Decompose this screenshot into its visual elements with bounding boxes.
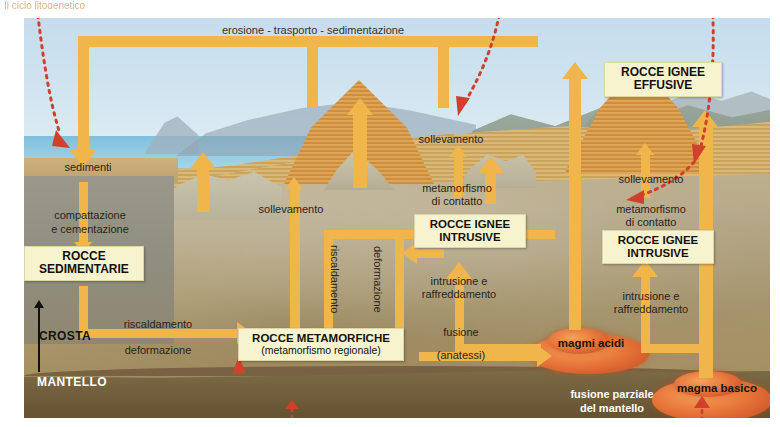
box-rocce-sedimentarie[interactable]: ROCCE SEDIMENTARIE (24, 246, 144, 281)
label-fusione-line2: (anatessi) (420, 349, 502, 362)
arrow-central-cone-uplift-head (347, 98, 373, 115)
label-sollevamento-right: sollevamento (596, 173, 706, 186)
cut-off-caption: Il ciclo litogenetico (4, 0, 234, 9)
label-fusione-line1: fusione (420, 326, 502, 339)
crust-thickness-scale-line (38, 308, 40, 372)
label-metamorfismo-right-line2: di contatto (596, 216, 706, 229)
label-metamorfismo-right-line1: metamorfismo (596, 203, 706, 216)
box-intrusive-right-line1: ROCCE IGNEE (618, 234, 699, 246)
label-intrusione-right-line1: intrusione e (590, 290, 712, 303)
crust-thickness-scale-head-icon (34, 300, 44, 308)
box-rocce-metamorfiche-sub: (metamorfismo regionale) (246, 345, 396, 357)
box-rocce-sedimentarie-line1: ROCCE (62, 249, 105, 263)
diagram-scene: erosione - trasporto - sedimentazione se… (24, 18, 770, 418)
label-crosta: CROSTA (24, 329, 108, 344)
arrow-knoll-uplift-head (478, 156, 504, 173)
label-magma-basico: magma basico (663, 381, 770, 395)
label-riscaldamento-horizontal: riscaldamento (108, 318, 208, 331)
arrow-central-cone-uplift (353, 114, 367, 188)
label-fusione-parziale-line2: del mantello (552, 402, 672, 415)
box-rocce-ignee-intrusive-center[interactable]: ROCCE IGNEE INTRUSIVE (414, 214, 526, 248)
label-metamorfismo-center-line2: di contatto (402, 195, 512, 208)
label-sollevamento-center: sollevamento (396, 133, 506, 146)
label-sollevamento-left: sollevamento (236, 203, 346, 216)
rock-cycle-figure: Il ciclo litogenetico (0, 0, 780, 427)
dotted-path-bottom-center (282, 400, 302, 418)
dotted-path-left (24, 18, 94, 168)
arrow-metamorfiche-sollevamento-head (285, 177, 303, 189)
label-magmi-acidi: magmi acidi (543, 336, 639, 350)
label-fusione-parziale-line1: fusione parziale (552, 388, 672, 401)
box-intrusive-center-line1: ROCCE IGNEE (430, 218, 511, 230)
box-rocce-ignee-intrusive-right[interactable]: ROCCE IGNEE INTRUSIVE (602, 230, 714, 264)
box-intrusive-center-line2: INTRUSIVE (439, 231, 500, 243)
label-intrusione-right-line2: raffreddamento (590, 303, 712, 316)
arrow-intrusive-center-out-left (414, 249, 444, 258)
label-intrusione-center-line1: intrusione e (401, 275, 517, 288)
arrow-sollevamento-left-massif-head (190, 152, 216, 169)
arrow-intrusione-right-base (641, 344, 705, 353)
label-sedimenti: sedimenti (42, 161, 134, 174)
arrow-sollevamento-left-massif (197, 168, 209, 212)
arrow-intrusive-center-sollevamento-head (449, 145, 467, 157)
arrow-right-recycle-lower (569, 178, 581, 330)
label-deformazione-horizontal: deformazione (108, 344, 208, 357)
dotted-path-center (444, 18, 534, 130)
box-effusive-line2: EFFUSIVE (634, 78, 693, 92)
dotted-path-mantle-up (690, 396, 714, 418)
label-metamorfismo-center-line1: metamorfismo (402, 182, 512, 195)
label-riscaldamento-vertical: riscaldamento (328, 230, 341, 328)
label-erosione: erosione - trasporto - sedimentazione (188, 24, 438, 37)
box-rocce-metamorfiche-line1: ROCCE METAMORFICHE (252, 332, 390, 344)
arrow-right-recycle-head (562, 62, 588, 79)
arrow-erosion-right-horizontal (307, 36, 449, 47)
label-compattazione-line1: compattazione (32, 209, 148, 222)
label-compattazione-line2: e cementazione (32, 223, 148, 236)
box-rocce-sedimentarie-line2: SEDIMENTARIE (39, 262, 129, 276)
box-rocce-ignee-effusive[interactable]: ROCCE IGNEE EFFUSIVE (604, 62, 722, 97)
box-rocce-metamorfiche[interactable]: ROCCE METAMORFICHE (metamorfismo regiona… (238, 328, 404, 361)
label-deformazione-vertical: deformazione (371, 230, 384, 328)
arrow-right-recycle-riser (569, 78, 581, 186)
dotted-path-right (620, 18, 750, 220)
label-intrusione-center-line2: raffreddamento (401, 288, 517, 301)
box-effusive-line1: ROCCE IGNEE (621, 65, 705, 79)
label-mantello: MANTELLO (24, 375, 122, 390)
box-intrusive-right-line2: INTRUSIVE (627, 247, 688, 259)
